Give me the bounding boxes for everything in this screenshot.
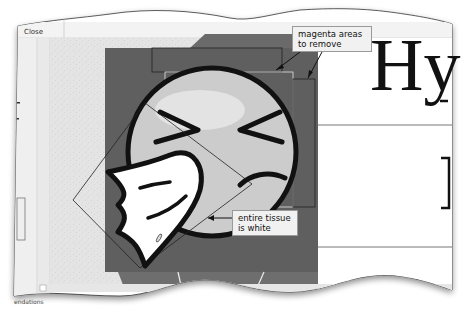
callout-text: entire tissue: [238, 213, 292, 223]
status-bar-text: endations: [14, 298, 44, 305]
callout-entire-tissue: entire tissue is white: [232, 210, 298, 236]
callout-text: to remove: [298, 39, 366, 49]
document-heading-glyph: Hy: [370, 28, 460, 102]
callout-magenta-areas: magenta areas to remove: [292, 26, 372, 52]
callout-text: is white: [238, 223, 292, 233]
close-button[interactable]: Close: [24, 28, 43, 36]
screenshot-stage: Close Hy magenta areas to remove entire …: [0, 0, 465, 318]
callout-text: magenta areas: [298, 29, 366, 39]
